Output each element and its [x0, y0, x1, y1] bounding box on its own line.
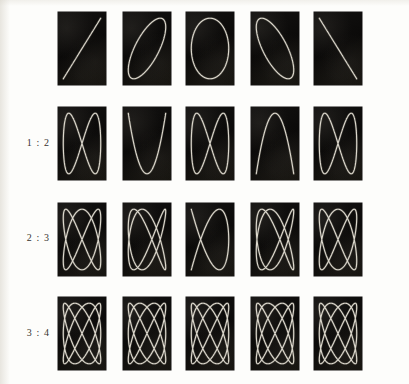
curve-stroke	[128, 209, 165, 270]
lissajous-curve-svg	[123, 297, 171, 370]
curve-stroke	[256, 18, 293, 79]
lissajous-curve-svg	[123, 12, 171, 85]
row-ratio-label-1-2: 1 : 2	[10, 137, 50, 148]
lissajous-1-1-phase-0	[58, 12, 106, 85]
lissajous-curve-svg	[314, 107, 362, 180]
lissajous-3-4-phase-3-8	[251, 297, 299, 370]
curve-stroke	[128, 303, 165, 364]
lissajous-curve-svg	[186, 12, 234, 85]
lissajous-curve-svg	[186, 297, 234, 370]
lissajous-3-4-phase-1-4	[186, 297, 234, 370]
curve-stroke	[319, 303, 356, 364]
lissajous-1-2-phase-1-8	[123, 107, 171, 180]
lissajous-1-1-phase-1-4	[186, 12, 234, 85]
lissajous-curve-svg	[314, 203, 362, 276]
curve-stroke	[191, 209, 228, 270]
curve-stroke	[128, 113, 165, 174]
curve-stroke	[256, 113, 293, 174]
curve-stroke	[256, 209, 293, 270]
lissajous-3-4-phase-1-2	[314, 297, 362, 370]
lissajous-curve-svg	[251, 297, 299, 370]
lissajous-2-3-phase-1-4	[186, 203, 234, 276]
lissajous-3-4-phase-0	[58, 297, 106, 370]
lissajous-curve-svg	[123, 203, 171, 276]
curve-stroke	[319, 209, 356, 270]
lissajous-curve-svg	[58, 203, 106, 276]
curve-stroke	[63, 18, 100, 79]
lissajous-1-2-phase-3-8	[251, 107, 299, 180]
lissajous-curve-svg	[251, 203, 299, 276]
lissajous-curve-svg	[58, 297, 106, 370]
curve-stroke	[63, 209, 100, 270]
lissajous-1-2-phase-0	[58, 107, 106, 180]
lissajous-3-4-phase-1-8	[123, 297, 171, 370]
row-ratio-label-2-3: 2 : 3	[10, 232, 50, 243]
lissajous-2-3-phase-1-2	[314, 203, 362, 276]
lissajous-1-1-phase-3-8	[251, 12, 299, 85]
curve-stroke	[191, 18, 228, 79]
lissajous-2-3-phase-3-8	[251, 203, 299, 276]
lissajous-curve-svg	[58, 107, 106, 180]
row-ratio-label-3-4: 3 : 4	[10, 327, 50, 338]
lissajous-curve-svg	[251, 107, 299, 180]
curve-stroke	[63, 113, 100, 174]
curve-stroke	[63, 303, 100, 364]
curve-stroke	[319, 113, 356, 174]
lissajous-curve-svg	[58, 12, 106, 85]
lissajous-curve-svg	[186, 107, 234, 180]
curve-stroke	[191, 303, 228, 364]
lissajous-curve-svg	[123, 107, 171, 180]
lissajous-curve-svg	[314, 12, 362, 85]
lissajous-1-1-phase-1-8	[123, 12, 171, 85]
curve-stroke	[319, 18, 356, 79]
lissajous-curve-svg	[186, 203, 234, 276]
lissajous-1-1-phase-1-2	[314, 12, 362, 85]
lissajous-2-3-phase-1-8	[123, 203, 171, 276]
lissajous-curve-svg	[314, 297, 362, 370]
curve-stroke	[128, 18, 165, 79]
curve-stroke	[256, 303, 293, 364]
lissajous-2-3-phase-0	[58, 203, 106, 276]
lissajous-1-2-phase-1-4	[186, 107, 234, 180]
panel-grid: 1 : 22 : 33 : 4	[0, 0, 409, 384]
lissajous-1-2-phase-1-2	[314, 107, 362, 180]
curve-stroke	[191, 113, 228, 174]
lissajous-plate: 1 : 22 : 33 : 4	[0, 0, 409, 384]
lissajous-curve-svg	[251, 12, 299, 85]
